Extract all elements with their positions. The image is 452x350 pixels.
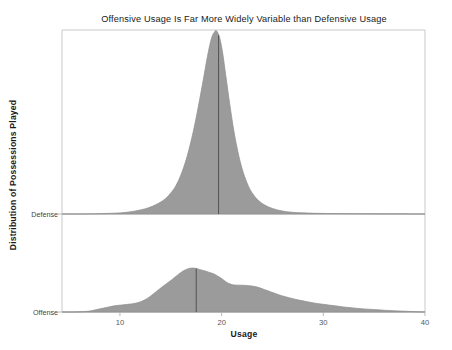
x-tick-label: 30 (319, 318, 327, 327)
x-tick-label: 40 (421, 318, 429, 327)
plot-frame (62, 30, 425, 312)
ridge-area-offense (62, 268, 425, 312)
ridge-area-defense (62, 31, 425, 214)
x-tick-label: 10 (116, 318, 124, 327)
chart-title: Offensive Usage Is Far More Widely Varia… (101, 14, 387, 24)
category-label-offense: Offense (33, 308, 58, 317)
y-axis-title: Distribution of Possessions Played (8, 100, 18, 251)
ridgeline-chart-figure: Offensive Usage Is Far More Widely Varia… (0, 0, 452, 350)
chart-canvas: Offensive Usage Is Far More Widely Varia… (0, 0, 452, 350)
x-axis-title: Usage (231, 329, 258, 339)
category-label-defense: Defense (31, 210, 58, 219)
x-tick-label: 20 (217, 318, 225, 327)
